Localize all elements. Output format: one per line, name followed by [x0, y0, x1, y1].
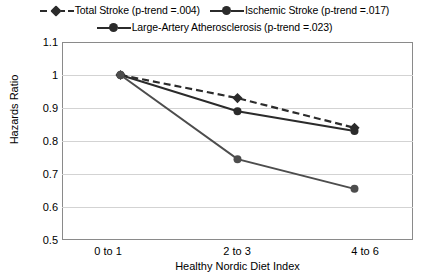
series-line-2 [121, 75, 355, 189]
legend-label-ischemic-stroke: Ischemic Stroke (p-trend =.017) [245, 5, 389, 16]
x-axis-title: Healthy Nordic Diet Index [62, 261, 413, 272]
legend-item-ischemic-stroke: Ischemic Stroke (p-trend =.017) [210, 5, 389, 16]
y-axis-tick-labels: 1.1 1 0.9 0.8 0.7 0.6 0.5 [26, 0, 58, 276]
data-point-marker [117, 71, 125, 79]
series-svg [62, 42, 413, 240]
hazards-ratio-line-chart: Total Stroke (p-trend =.004) Ischemic St… [0, 0, 429, 276]
x-tick-0-to-1: 0 to 1 [68, 246, 148, 257]
y-tick-0-8: 0.8 [32, 136, 58, 147]
legend-row-1: Total Stroke (p-trend =.004) Ischemic St… [0, 2, 429, 19]
data-point-marker [232, 93, 242, 103]
y-axis-title: Hazards Ratio [9, 60, 20, 160]
y-tick-0-9: 0.9 [32, 103, 58, 114]
y-tick-0-7: 0.7 [32, 169, 58, 180]
solid-line-circle-marker-icon [97, 22, 131, 33]
legend-item-large-artery-atherosclerosis: Large-Artery Atherosclerosis (p-trend =.… [97, 22, 333, 33]
y-tick-0-6: 0.6 [32, 202, 58, 213]
data-point-marker [351, 127, 359, 135]
y-tick-1-1: 1.1 [32, 37, 58, 48]
legend-row-2: Large-Artery Atherosclerosis (p-trend =.… [0, 19, 429, 36]
solid-line-circle-marker-icon [210, 5, 244, 16]
x-tick-2-to-3: 2 to 3 [197, 246, 277, 257]
data-point-marker [234, 155, 242, 163]
x-tick-4-to-6: 4 to 6 [325, 246, 405, 257]
data-point-marker [351, 185, 359, 193]
chart-legend: Total Stroke (p-trend =.004) Ischemic St… [0, 2, 429, 38]
y-tick-0-5: 0.5 [32, 235, 58, 246]
y-tick-1: 1 [32, 70, 58, 81]
legend-label-total-stroke: Total Stroke (p-trend =.004) [75, 5, 200, 16]
data-point-marker [234, 107, 242, 115]
plot-area [62, 42, 413, 240]
legend-item-total-stroke: Total Stroke (p-trend =.004) [40, 5, 200, 16]
legend-label-large-artery-atherosclerosis: Large-Artery Atherosclerosis (p-trend =.… [132, 22, 333, 33]
